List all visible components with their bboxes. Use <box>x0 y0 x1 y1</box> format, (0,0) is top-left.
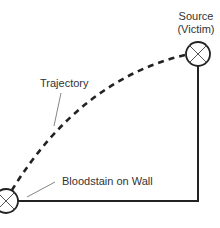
victim-label: (Victim) <box>177 23 214 35</box>
bloodstain-icon <box>0 189 18 213</box>
trajectory-curve <box>12 55 185 190</box>
trajectory-label: Trajectory <box>40 77 89 89</box>
bloodstain-label: Bloodstain on Wall <box>62 175 153 187</box>
trajectory-leader-line <box>54 93 61 126</box>
source-victim-icon <box>186 42 210 66</box>
bloodstain-trajectory-diagram: Source (Victim) Trajectory Bloodstain on… <box>0 0 220 228</box>
source-label: Source <box>179 10 214 22</box>
bloodstain-leader-line <box>27 182 55 197</box>
